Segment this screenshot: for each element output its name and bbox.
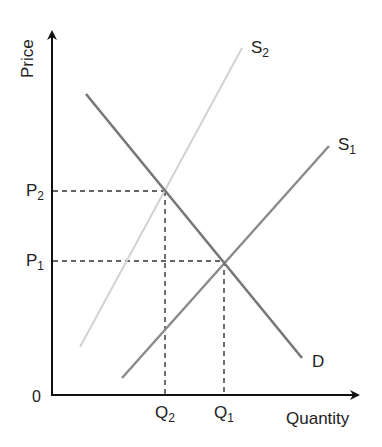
curve-label-d: D xyxy=(312,352,324,371)
price-label-p2: P2 xyxy=(26,181,44,203)
supply-curve-s2 xyxy=(80,48,242,347)
curve-label-s1: S1 xyxy=(338,135,356,157)
price-label-p1: P1 xyxy=(26,251,44,273)
curve-label-s2: S2 xyxy=(251,38,269,60)
y-axis-label: Price xyxy=(18,39,37,78)
quantity-label-q2: Q2 xyxy=(155,403,175,425)
origin-label: 0 xyxy=(32,388,41,405)
supply-demand-diagram: Price Quantity 0 S2 S1 D P2 P1 Q2 Q1 xyxy=(0,0,382,447)
demand-curve-d xyxy=(86,94,302,358)
supply-curve-s1 xyxy=(122,146,329,378)
quantity-label-q1: Q1 xyxy=(214,403,234,425)
x-axis-label: Quantity xyxy=(286,409,350,428)
